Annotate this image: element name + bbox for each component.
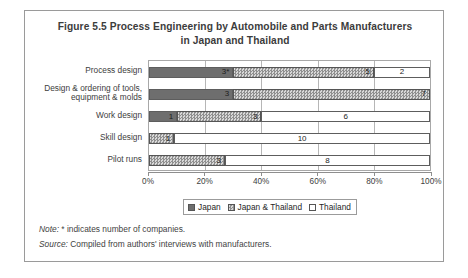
x-axis-tick: [204, 172, 205, 176]
category-label-line: Work design: [38, 111, 142, 121]
bar-row: 110: [149, 133, 430, 144]
bar-segment: 5: [233, 67, 374, 78]
bar-value-label: 6: [262, 113, 429, 121]
figure-title-line-2: in Japan and Thailand: [180, 35, 289, 46]
bars-plot-box: 3*523713611038: [148, 60, 431, 171]
bar-value-label: 5: [365, 68, 369, 76]
category-label-line: Skill design: [38, 133, 142, 143]
bar-value-label: 3: [216, 157, 220, 165]
legend-item-thailand: Thailand: [309, 202, 351, 212]
figure-title: Figure 5.5 Process Engineering by Automo…: [35, 20, 435, 47]
source-label: Source:: [39, 239, 68, 249]
category-axis: Process designDesign & ordering of tools…: [39, 60, 147, 171]
bar-segment: 6: [261, 111, 430, 122]
x-axis-tick-label: 80%: [366, 177, 382, 186]
bar-value-label: 1: [166, 135, 170, 143]
legend-item-japan: Japan: [188, 202, 221, 212]
figure-container: Figure 5.5 Process Engineering by Automo…: [24, 10, 444, 262]
legend-item-japan_thailand: Japan & Thailand: [228, 202, 302, 212]
bar-segment: 2: [374, 67, 430, 78]
bar-value-label: 3: [253, 113, 257, 121]
category-label: Pilot runs: [38, 155, 142, 165]
x-axis-tick: [431, 172, 432, 176]
bar-value-label: 8: [226, 157, 429, 165]
bar-segment: 10: [174, 133, 430, 144]
x-axis-tick: [261, 172, 262, 176]
category-label: Design & ordering of tools,equipment & m…: [38, 84, 142, 103]
x-axis-tick-label: 0%: [142, 177, 154, 186]
chart-plot-area: Process designDesign & ordering of tools…: [39, 60, 431, 185]
x-axis-tick: [317, 172, 318, 176]
category-label: Work design: [38, 111, 142, 121]
bar-row: 136: [149, 111, 430, 122]
bar-row: 37: [149, 89, 430, 100]
category-label-line: Process design: [38, 66, 142, 76]
bar-segment: 3*: [149, 67, 233, 78]
figure-title-line-1: Figure 5.5 Process Engineering by Automo…: [58, 21, 413, 32]
category-label: Process design: [38, 66, 142, 76]
bar-value-label: 7: [422, 90, 426, 98]
category-label-line: Pilot runs: [38, 155, 142, 165]
bar-value-label: 3*: [222, 68, 230, 76]
x-axis-tick-label: 100%: [421, 177, 442, 186]
note-label: Note:: [39, 224, 59, 234]
bar-value-label: 3: [225, 90, 229, 98]
bar-value-label: 10: [175, 135, 429, 143]
bar-row: 3*52: [149, 67, 430, 78]
bar-segment: 3: [149, 89, 233, 100]
x-axis-line: [148, 172, 431, 173]
legend-label: Japan & Thailand: [238, 202, 302, 212]
bar-segment: 3: [149, 155, 225, 166]
x-axis-tick: [374, 172, 375, 176]
bar-segment: 3: [177, 111, 261, 122]
note-line: Note: * indicates number of companies.: [39, 222, 431, 237]
legend-label: Thailand: [319, 202, 351, 212]
source-line: Source: Compiled from authors' interview…: [39, 237, 431, 252]
source-text: Compiled from authors' interviews with m…: [68, 239, 272, 249]
legend-label: Japan: [198, 202, 221, 212]
bar-row: 38: [149, 155, 430, 166]
x-axis: 0%20%40%60%80%100%: [148, 172, 431, 196]
bar-value-label: 1: [169, 113, 173, 121]
figure-notes: Note: * indicates number of companies. S…: [39, 222, 431, 252]
category-label-line: equipment & molds: [38, 93, 142, 103]
legend-swatch-thailand: [309, 204, 316, 211]
bar-segment: 1: [149, 133, 174, 144]
note-text: * indicates number of companies.: [59, 224, 185, 234]
legend-swatch-japan: [188, 204, 195, 211]
x-axis-tick-label: 60%: [310, 177, 326, 186]
x-axis-tick-label: 40%: [253, 177, 269, 186]
x-axis-tick: [148, 172, 149, 176]
x-axis-tick-label: 20%: [196, 177, 212, 186]
category-label: Skill design: [38, 133, 142, 143]
bar-value-label: 2: [375, 68, 429, 76]
bar-segment: 7: [233, 89, 430, 100]
chart-legend: JapanJapan & ThailandThailand: [183, 199, 357, 215]
bar-segment: 1: [149, 111, 177, 122]
bar-segment: 8: [225, 155, 430, 166]
legend-swatch-japan_thailand: [228, 204, 235, 211]
